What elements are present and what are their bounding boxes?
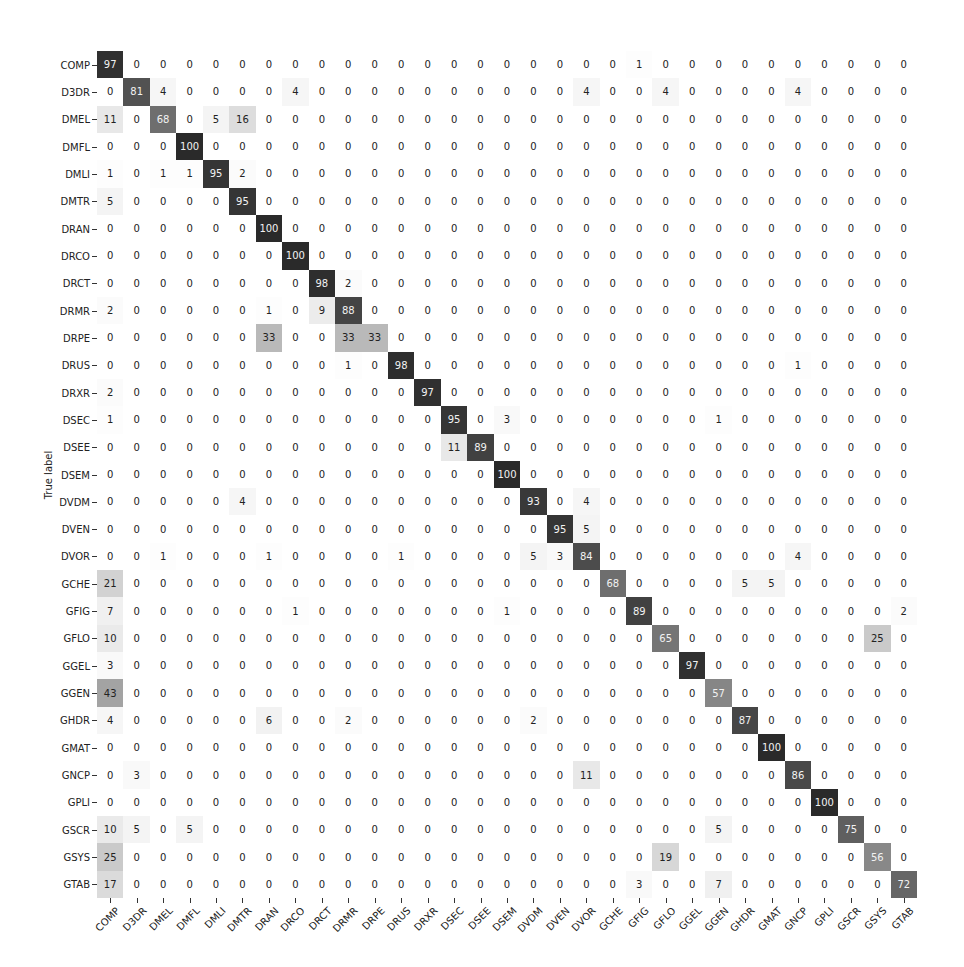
matrix-cell: 0 (282, 734, 308, 761)
matrix-cell: 0 (811, 734, 837, 761)
matrix-cell: 0 (652, 515, 678, 542)
matrix-cell: 0 (97, 352, 123, 379)
matrix-cell: 43 (97, 679, 123, 706)
matrix-cell: 0 (864, 270, 890, 297)
matrix-cell: 0 (441, 270, 467, 297)
matrix-cell: 0 (758, 352, 784, 379)
matrix-cell: 0 (891, 297, 917, 324)
matrix-cell: 0 (679, 625, 705, 652)
matrix-cell: 4 (150, 78, 176, 105)
matrix-cell: 0 (362, 871, 388, 898)
matrix-cell: 0 (176, 324, 202, 351)
matrix-cell: 0 (652, 597, 678, 624)
matrix-cell: 0 (838, 133, 864, 160)
matrix-cell: 100 (282, 242, 308, 269)
matrix-cell: 0 (414, 270, 440, 297)
matrix-cell: 0 (176, 597, 202, 624)
matrix-cell: 0 (123, 707, 149, 734)
matrix-cell: 0 (600, 434, 626, 461)
matrix-cell: 0 (520, 871, 546, 898)
matrix-cell: 0 (335, 106, 361, 133)
x-tick-label: DRUS (385, 905, 413, 933)
matrix-cell: 0 (229, 242, 255, 269)
x-tick (190, 898, 191, 903)
matrix-cell: 0 (203, 406, 229, 433)
matrix-cell: 0 (229, 515, 255, 542)
matrix-cell: 0 (362, 652, 388, 679)
y-tick-label: DRUS (62, 360, 90, 371)
matrix-cell: 0 (652, 570, 678, 597)
matrix-cell: 0 (229, 133, 255, 160)
matrix-cell: 0 (679, 215, 705, 242)
matrix-cell: 0 (388, 816, 414, 843)
matrix-cell: 3 (547, 543, 573, 570)
matrix-cell: 0 (335, 652, 361, 679)
matrix-cell: 97 (679, 652, 705, 679)
matrix-cell: 0 (600, 597, 626, 624)
matrix-cell: 0 (441, 707, 467, 734)
matrix-cell: 0 (732, 816, 758, 843)
matrix-cell: 0 (652, 434, 678, 461)
matrix-cell: 0 (256, 188, 282, 215)
y-tick-label: DRXR (62, 387, 90, 398)
matrix-cell: 0 (732, 679, 758, 706)
matrix-cell: 0 (652, 488, 678, 515)
x-tick-label: GHDR (728, 905, 757, 934)
matrix-cell: 0 (123, 871, 149, 898)
matrix-cell: 0 (705, 379, 731, 406)
matrix-cell: 0 (388, 679, 414, 706)
matrix-cell: 0 (626, 270, 652, 297)
matrix-cell: 0 (785, 461, 811, 488)
matrix-cell: 0 (176, 215, 202, 242)
matrix-cell: 0 (811, 297, 837, 324)
matrix-cell: 5 (758, 570, 784, 597)
matrix-cell: 0 (203, 188, 229, 215)
matrix-cell: 0 (600, 106, 626, 133)
matrix-cell: 0 (600, 297, 626, 324)
matrix-cell: 0 (547, 570, 573, 597)
matrix-cell: 0 (864, 434, 890, 461)
matrix-cell: 0 (864, 188, 890, 215)
x-tick-label: DSEE (466, 905, 493, 932)
matrix-cell: 0 (229, 461, 255, 488)
matrix-cell: 0 (309, 488, 335, 515)
matrix-cell: 0 (705, 215, 731, 242)
y-tick-label: DSEE (63, 442, 90, 453)
matrix-cell: 0 (652, 789, 678, 816)
matrix-cell: 0 (705, 51, 731, 78)
matrix-cell: 0 (573, 789, 599, 816)
matrix-cell: 0 (176, 843, 202, 870)
matrix-cell: 0 (467, 242, 493, 269)
matrix-cell: 0 (176, 707, 202, 734)
x-tick-label: COMP (93, 905, 122, 934)
matrix-cell: 0 (150, 515, 176, 542)
matrix-cell: 0 (282, 679, 308, 706)
matrix-cell: 0 (758, 297, 784, 324)
matrix-cell: 0 (335, 133, 361, 160)
matrix-cell: 0 (864, 761, 890, 788)
matrix-cell: 0 (679, 543, 705, 570)
matrix-cell: 0 (547, 789, 573, 816)
matrix-cell: 0 (123, 570, 149, 597)
matrix-cell: 0 (758, 215, 784, 242)
matrix-cell: 0 (335, 188, 361, 215)
matrix-cell: 0 (150, 215, 176, 242)
matrix-cell: 0 (652, 761, 678, 788)
matrix-cell: 0 (732, 106, 758, 133)
matrix-cell: 0 (388, 570, 414, 597)
matrix-cell: 0 (203, 816, 229, 843)
matrix-cell: 4 (229, 488, 255, 515)
matrix-cell: 0 (256, 570, 282, 597)
matrix-cell: 0 (229, 434, 255, 461)
matrix-cell: 0 (123, 215, 149, 242)
matrix-cell: 0 (176, 761, 202, 788)
matrix-cell: 0 (758, 843, 784, 870)
matrix-cell: 0 (362, 434, 388, 461)
matrix-cell: 0 (732, 761, 758, 788)
matrix-cell: 0 (838, 543, 864, 570)
matrix-cell: 0 (811, 597, 837, 624)
matrix-cell: 0 (176, 297, 202, 324)
x-tick (904, 898, 905, 903)
matrix-cell: 0 (229, 707, 255, 734)
matrix-cell: 0 (362, 379, 388, 406)
